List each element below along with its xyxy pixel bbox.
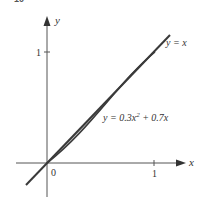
y-axis-label: y xyxy=(54,14,60,26)
origin-label: 0 xyxy=(51,167,56,178)
area-between-curves-diagram: y x 0 1 1 y = x y = 0.3x2 + 0.7x xyxy=(0,0,204,197)
curve-label: y = 0.3x2 + 0.7x xyxy=(102,111,169,123)
x-tick-label: 1 xyxy=(152,168,157,179)
x-axis-label: x xyxy=(188,156,194,168)
line-label: y = x xyxy=(165,37,187,48)
curve-label-suffix: + 0.7x xyxy=(140,112,169,123)
y-tick-label: 1 xyxy=(36,47,41,58)
x-axis-arrow-icon xyxy=(176,160,186,167)
curve-label-prefix: y = 0.3x xyxy=(102,112,137,123)
y-axis-arrow-icon xyxy=(44,16,51,26)
